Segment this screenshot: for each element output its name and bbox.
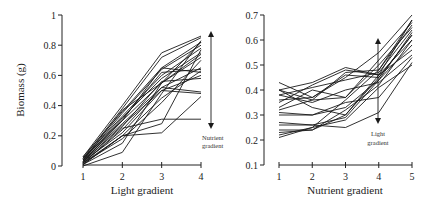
series-line-s14 (83, 71, 201, 163)
light-annotation-line1: Light (371, 130, 385, 137)
y-tick-label: 0 (51, 161, 56, 172)
right-series-lines (279, 15, 412, 138)
left-y-axis-title: Biomass (g) (14, 63, 27, 117)
left-chart: 00.20.40.60.81 1234 Biomass (g) Light gr… (14, 10, 224, 197)
nutrient-annotation-line1: Nutrient (202, 134, 224, 141)
x-tick-label: 5 (410, 171, 415, 182)
x-tick-label: 4 (199, 171, 204, 182)
y-tick-label: 0.3 (246, 110, 259, 121)
left-x-axis: 1234 (81, 162, 204, 182)
y-tick-label: 0.2 (246, 135, 259, 146)
x-tick-label: 2 (120, 171, 125, 182)
left-y-axis: 00.20.40.60.81 (44, 10, 63, 172)
x-tick-label: 4 (376, 171, 381, 182)
figure: 00.20.40.60.81 1234 Biomass (g) Light gr… (0, 0, 431, 210)
y-tick-label: 0.4 (246, 85, 259, 96)
x-tick-label: 2 (310, 171, 315, 182)
light-annotation-line2: gradient (367, 139, 388, 146)
y-tick-label: 0.8 (44, 40, 57, 51)
nutrient-annotation-line2: gradient (202, 142, 223, 149)
y-tick-label: 0.7 (246, 10, 259, 21)
y-tick-label: 0.6 (246, 35, 259, 46)
y-tick-label: 0.2 (44, 130, 57, 141)
right-x-axis-title: Nutrient gradient (307, 184, 382, 196)
y-tick-label: 0.6 (44, 70, 57, 81)
y-tick-label: 0.1 (246, 160, 259, 171)
x-tick-label: 1 (81, 171, 86, 182)
right-y-axis: 0.10.20.30.40.50.60.7 (246, 10, 265, 171)
series-line-s18 (83, 97, 201, 165)
series-line-s11 (279, 50, 412, 115)
x-tick-label: 3 (159, 171, 164, 182)
left-x-axis-title: Light gradient (111, 184, 174, 196)
left-series-lines (83, 36, 201, 166)
series-line-s3 (279, 25, 412, 100)
right-chart: 0.10.20.30.40.50.60.7 12345 Nutrient gra… (246, 10, 415, 197)
y-tick-label: 1 (51, 10, 56, 21)
x-tick-label: 1 (277, 171, 282, 182)
y-tick-label: 0.5 (246, 60, 259, 71)
y-tick-label: 0.4 (44, 100, 57, 111)
x-tick-label: 3 (343, 171, 348, 182)
right-x-axis: 12345 (277, 162, 415, 182)
